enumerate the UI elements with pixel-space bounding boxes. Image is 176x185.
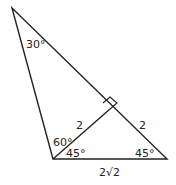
base-length-label: 2√2 (99, 166, 120, 179)
altitude-length-label: 2 (76, 119, 83, 132)
triangle-diagram: 30° 60° 45° 45° 2 2 2√2 (0, 0, 176, 185)
outer-triangle (12, 8, 167, 159)
diagram-canvas: 30° 60° 45° 45° 2 2 2√2 (0, 0, 176, 185)
angle-right-label: 45° (135, 147, 155, 160)
angle-left-lower-label: 45° (66, 147, 86, 160)
angle-top-label: 30° (26, 38, 46, 51)
right-segment-label: 2 (139, 119, 146, 132)
